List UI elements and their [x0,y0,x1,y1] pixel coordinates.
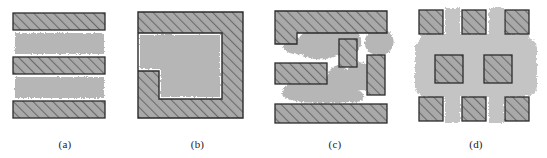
panel-a-graphic [0,0,130,140]
hatched-bar [367,55,385,95]
hatched-bar [13,57,105,74]
panel-label-b: (b) [130,138,265,150]
hatched-bar [484,55,512,83]
hatched-bar [505,10,529,34]
hatched-bar [462,10,486,34]
gray-region [415,38,537,96]
hatched-bar [339,39,357,67]
hatched-bar [419,97,443,121]
panel-label-c: (c) [265,138,405,150]
hatched-bar [462,97,486,121]
panel-c-graphic [265,0,405,140]
panel-label-d: (d) [405,138,547,150]
hatched-bar [275,104,387,123]
panel-b: (b) [130,0,265,158]
panel-c-hatched-bars [275,11,387,123]
panel-a: (a) [0,0,130,158]
panel-d: (d) [405,0,547,158]
hatched-bar [419,10,443,34]
hatched-bar [13,101,105,118]
panel-b-graphic [130,0,265,140]
figure-container: (a) (b) [0,0,547,158]
hatched-bar [435,55,463,83]
panel-label-a: (a) [0,138,130,150]
hatched-bar [275,63,327,84]
hatched-bar [505,97,529,121]
panel-a-hatched-bars [13,13,105,118]
panel-d-graphic [405,0,547,140]
hatched-bar [13,13,105,30]
panel-c: (c) [265,0,405,158]
gray-region [15,33,104,54]
gray-region [15,77,104,98]
